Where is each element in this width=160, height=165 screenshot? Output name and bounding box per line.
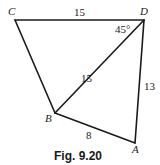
vertex-label-d: D [139,5,148,17]
edge-da [135,20,144,143]
edge-cb [15,20,55,113]
figure-caption: Fig. 9.20 [54,149,102,163]
vertex-label-a: A [131,143,139,155]
angle-label-d: 45° [115,23,130,35]
length-label-ba: 8 [86,129,92,141]
vertex-label-c: C [8,5,16,17]
quadrilateral-diagram: C D B A 15 15 13 8 45° Fig. 9.20 [0,0,160,165]
length-label-db: 15 [81,72,93,84]
length-label-cd: 15 [74,6,86,18]
vertex-label-b: B [45,112,52,124]
length-label-da: 13 [144,80,156,92]
edge-ba [55,113,135,143]
edge-db [55,20,144,113]
